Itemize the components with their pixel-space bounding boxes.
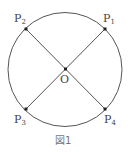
label-p3: P3: [14, 113, 26, 127]
circle-diagram: P1 P2 P3 P4 O 図1: [0, 0, 130, 152]
label-p2: P2: [14, 12, 26, 26]
label-center-o: O: [60, 73, 69, 86]
figure-caption: 図1: [55, 135, 71, 146]
point-p3: [25, 108, 28, 111]
point-p1: [104, 28, 107, 31]
label-p1: P1: [103, 12, 115, 26]
point-p4: [104, 108, 107, 111]
point-o: [64, 68, 67, 71]
point-p2: [25, 28, 28, 31]
label-p4: P4: [104, 113, 116, 127]
